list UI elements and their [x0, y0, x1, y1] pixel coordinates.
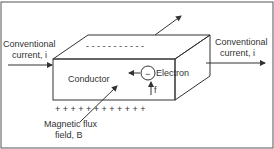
magnetic-flux-label-line2: field, B — [55, 130, 83, 140]
current-out-label-line2: current, i — [220, 48, 255, 58]
positive-charges: + + + + + + + + + + + + — [55, 104, 146, 114]
hall-effect-diagram: - - - - - - - - - - - + + + + + + + + + … — [0, 0, 274, 149]
negative-charges: - - - - - - - - - - - — [86, 41, 144, 51]
current-in-label-line2: current, i — [12, 50, 47, 60]
top-force-arrow-icon — [155, 16, 181, 35]
electron-label: Electron — [156, 68, 189, 78]
current-out-label-line1: Conventional — [215, 37, 268, 47]
electron-charge-sign: − — [145, 69, 150, 79]
force-label: f — [154, 85, 157, 95]
conductor-label: Conductor — [68, 74, 110, 84]
frame-border — [1, 2, 273, 148]
current-in-label-line1: Conventional — [3, 39, 56, 49]
magnetic-flux-label-line1: Magnetic flux — [44, 119, 98, 129]
